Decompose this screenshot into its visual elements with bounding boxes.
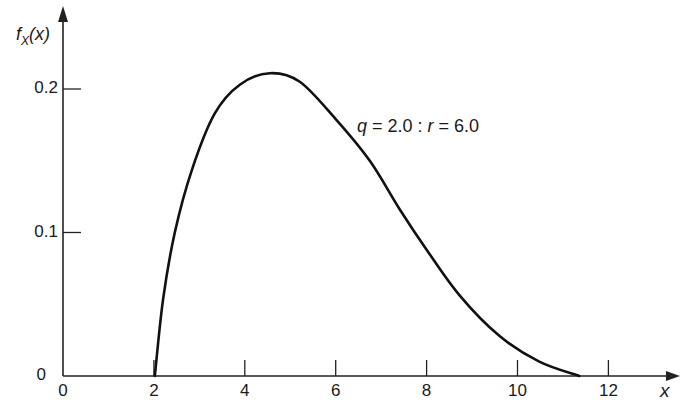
x-tick-label: 10 bbox=[498, 381, 538, 401]
y-tick-label: 0 bbox=[0, 365, 46, 385]
x-tick-label: 2 bbox=[134, 381, 174, 401]
x-tick-label: 6 bbox=[316, 381, 356, 401]
param-q: q bbox=[357, 116, 367, 136]
curve-annotation: q = 2.0 : r = 6.0 bbox=[357, 116, 479, 137]
x-tick-label: 0 bbox=[43, 381, 83, 401]
x-axis-label: x bbox=[660, 380, 670, 402]
param-q-value: = 2.0 : bbox=[367, 116, 428, 136]
param-r-value: = 6.0 bbox=[434, 116, 480, 136]
y-label-arg: (x) bbox=[29, 24, 50, 44]
y-tick-label: 0.2 bbox=[0, 78, 58, 98]
y-tick-label: 0.1 bbox=[0, 222, 58, 242]
x-tick-label: 12 bbox=[588, 381, 628, 401]
y-axis-label: fX(x) bbox=[16, 24, 50, 48]
x-tick-label: 8 bbox=[407, 381, 447, 401]
chart-canvas bbox=[0, 0, 696, 416]
y-label-subscript: X bbox=[21, 34, 29, 48]
x-tick-label: 4 bbox=[225, 381, 265, 401]
axes bbox=[58, 6, 680, 381]
